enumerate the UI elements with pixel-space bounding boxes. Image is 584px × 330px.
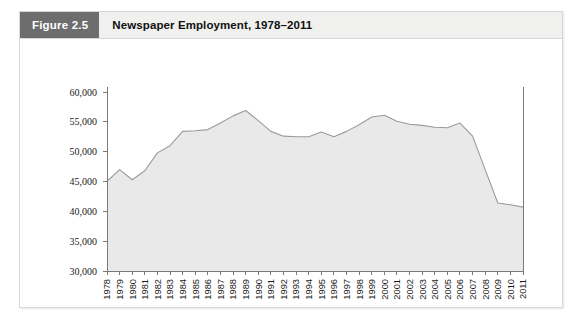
x-axis-tick-label: 1989 [241,279,251,300]
x-axis-tick-label: 2001 [392,279,402,300]
x-axis-tick-label: 2007 [468,279,478,300]
x-axis-tick-label: 1986 [203,279,213,300]
x-axis-tick-label: 1978 [102,279,112,300]
y-axis-tick-label: 40,000 [70,206,98,217]
figure-header: Figure 2.5 Newspaper Employment, 1978–20… [20,12,562,39]
x-axis-tick-label: 1992 [279,279,289,300]
x-axis-tick-label: 1980 [128,279,138,300]
x-axis-tick-label: 1995 [317,279,327,300]
y-axis-tick-label: 45,000 [70,176,98,187]
y-axis-tick-label: 35,000 [70,236,98,247]
chart-plot-area: 30,00035,00040,00045,00050,00055,00060,0… [20,39,562,307]
x-axis-tick-label: 1998 [355,279,365,300]
newspaper-employment-area-chart: 30,00035,00040,00045,00050,00055,00060,0… [20,39,562,308]
figure-title: Newspaper Employment, 1978–2011 [99,12,312,38]
x-axis-tick-label: 1984 [178,279,188,300]
x-axis-tick-label: 1990 [254,279,264,300]
x-axis-tick-label: 2008 [481,279,491,300]
x-axis-tick-label: 1979 [115,279,125,300]
x-axis-tick-label: 1993 [291,279,301,300]
y-axis-tick-label: 60,000 [70,87,98,98]
figure-container: Figure 2.5 Newspaper Employment, 1978–20… [19,11,563,308]
x-axis-tick-label: 2006 [455,279,465,300]
x-axis-tick-label: 2010 [506,279,516,300]
x-axis-tick-label: 2002 [405,279,415,300]
x-axis-tick-label: 1985 [191,279,201,300]
x-axis-tick-label: 1988 [228,279,238,300]
x-axis-tick-label: 1996 [329,279,339,300]
x-axis-tick-label: 2009 [493,279,503,300]
y-axis-tick-label: 55,000 [70,116,98,127]
x-axis-tick-label: 1987 [216,279,226,300]
y-axis-tick-labels: 30,00035,00040,00045,00050,00055,00060,0… [70,87,98,277]
x-axis-tick-marks [107,271,523,275]
x-axis-tick-label: 2003 [418,279,428,300]
x-axis-tick-label: 1999 [367,279,377,300]
y-axis-tick-label: 50,000 [70,146,98,157]
x-axis-tick-label: 2004 [430,279,440,300]
y-axis-tick-label: 30,000 [70,266,98,277]
x-axis-tick-labels: 1978197919801981198219831984198519861987… [102,279,528,300]
x-axis-tick-label: 1994 [304,279,314,300]
x-axis-tick-label: 1991 [266,279,276,300]
x-axis-tick-label: 2005 [443,279,453,300]
x-axis-tick-label: 2011 [518,279,528,299]
y-axis-tick-marks [103,92,107,271]
x-axis-tick-label: 1981 [140,279,150,300]
x-axis-tick-label: 2000 [380,279,390,300]
x-axis-tick-label: 1997 [342,279,352,300]
figure-number-badge: Figure 2.5 [20,12,99,38]
x-axis-tick-label: 1983 [165,279,175,300]
x-axis-tick-label: 1982 [153,279,163,300]
